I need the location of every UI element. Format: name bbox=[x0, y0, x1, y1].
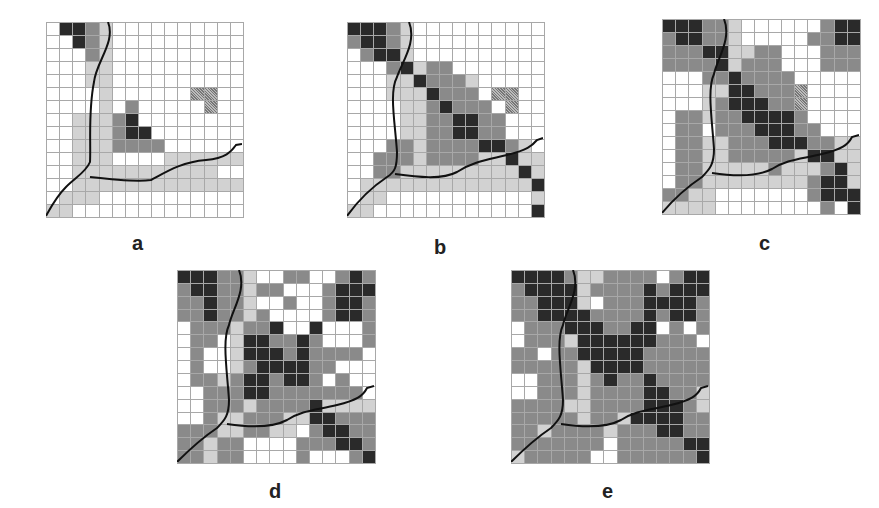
grid-cell bbox=[670, 413, 682, 425]
grid-cell bbox=[795, 85, 807, 97]
grid-cell bbox=[336, 322, 348, 334]
grid-cell bbox=[440, 49, 452, 61]
grid-cell bbox=[374, 101, 386, 113]
grid-cell bbox=[676, 72, 688, 84]
grid-cell bbox=[703, 33, 715, 45]
grid-cell bbox=[73, 192, 85, 204]
grid-cell bbox=[821, 150, 833, 162]
grid-cell bbox=[808, 46, 820, 58]
grid-cell bbox=[716, 124, 728, 136]
grid-cell bbox=[689, 111, 701, 123]
grid-cell bbox=[519, 140, 531, 152]
grid-cell bbox=[604, 438, 616, 450]
grid-cell bbox=[453, 140, 465, 152]
grid-cell bbox=[73, 88, 85, 100]
grid-cell bbox=[191, 23, 203, 35]
grid-cell bbox=[47, 23, 59, 35]
grid-cell bbox=[631, 361, 643, 373]
grid-cell bbox=[139, 127, 151, 139]
grid-cell bbox=[427, 75, 439, 87]
grid-cell bbox=[218, 166, 230, 178]
grid-cell bbox=[519, 101, 531, 113]
grid-cell bbox=[782, 163, 794, 175]
grid-cell bbox=[231, 400, 243, 412]
grid-cell bbox=[453, 101, 465, 113]
grid-cell bbox=[440, 114, 452, 126]
grid-cell bbox=[60, 192, 72, 204]
grid-cell bbox=[361, 62, 373, 74]
grid-cell bbox=[310, 374, 322, 386]
grid-cell bbox=[795, 163, 807, 175]
grid-cell bbox=[848, 72, 860, 84]
grid-cell bbox=[350, 271, 362, 283]
grid-cell bbox=[835, 137, 847, 149]
grid-cell bbox=[538, 374, 550, 386]
grid-cell bbox=[591, 425, 603, 437]
grid-cell bbox=[350, 348, 362, 360]
grid-cell bbox=[427, 101, 439, 113]
grid-cell bbox=[657, 425, 669, 437]
grid-cell bbox=[519, 36, 531, 48]
grid-cell bbox=[60, 127, 72, 139]
grid-cell bbox=[525, 438, 537, 450]
grid-cell bbox=[697, 400, 709, 412]
grid-cell bbox=[716, 33, 728, 45]
grid-cell bbox=[178, 348, 190, 360]
grid-cell bbox=[591, 284, 603, 296]
grid-cell bbox=[284, 335, 296, 347]
grid-cell bbox=[703, 111, 715, 123]
grid-cell bbox=[139, 140, 151, 152]
grid-cell bbox=[178, 75, 190, 87]
grid-cell bbox=[86, 153, 98, 165]
grid-cell bbox=[231, 88, 243, 100]
grid-cell bbox=[618, 361, 630, 373]
grid-cell bbox=[139, 179, 151, 191]
grid-cell bbox=[218, 114, 230, 126]
grid-cell bbox=[270, 297, 282, 309]
grid-cell bbox=[348, 127, 360, 139]
grid-cell bbox=[336, 451, 348, 463]
grid-cell bbox=[742, 98, 754, 110]
grid-cell bbox=[152, 88, 164, 100]
grid-cell bbox=[401, 114, 413, 126]
grid-cell bbox=[387, 140, 399, 152]
grid-cell bbox=[644, 438, 656, 450]
grid-cell bbox=[401, 140, 413, 152]
grid-cell bbox=[178, 205, 190, 217]
grid-cell bbox=[152, 49, 164, 61]
grid-cell bbox=[60, 179, 72, 191]
grid-cell bbox=[604, 271, 616, 283]
grid-cell bbox=[191, 348, 203, 360]
grid-cell bbox=[532, 127, 544, 139]
grid-cell bbox=[782, 85, 794, 97]
grid-cell bbox=[782, 72, 794, 84]
grid-cell bbox=[152, 23, 164, 35]
grid-cell bbox=[578, 400, 590, 412]
grid-cell bbox=[284, 374, 296, 386]
grid-cell bbox=[591, 374, 603, 386]
grid-cell bbox=[644, 374, 656, 386]
grid-cell bbox=[205, 179, 217, 191]
grid-cell bbox=[604, 322, 616, 334]
grid-cell bbox=[618, 387, 630, 399]
grid-cell bbox=[374, 166, 386, 178]
grid-cell bbox=[374, 140, 386, 152]
grid-cell bbox=[703, 176, 715, 188]
grid-cell bbox=[453, 36, 465, 48]
grid-cell bbox=[729, 20, 741, 32]
grid-cell bbox=[191, 127, 203, 139]
grid-cell bbox=[631, 400, 643, 412]
grid-cell bbox=[479, 62, 491, 74]
grid-cell bbox=[86, 62, 98, 74]
grid-cell bbox=[512, 438, 524, 450]
grid-cell bbox=[374, 88, 386, 100]
grid-cell bbox=[670, 374, 682, 386]
grid-cell bbox=[139, 36, 151, 48]
grid-cell bbox=[835, 46, 847, 58]
grid-cell bbox=[512, 451, 524, 463]
grid-cell bbox=[506, 62, 518, 74]
grid-cell bbox=[310, 361, 322, 373]
grid-cell bbox=[512, 387, 524, 399]
grid-cell bbox=[755, 176, 767, 188]
grid-cell bbox=[284, 348, 296, 360]
